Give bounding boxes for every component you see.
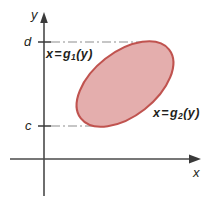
left-boundary-equals: = xyxy=(53,47,63,61)
left-boundary-argument: (y) xyxy=(76,47,92,61)
right-boundary-equals: = xyxy=(160,106,170,120)
tick-label-d: d xyxy=(24,35,31,48)
right-boundary-subscript: 2 xyxy=(178,111,183,121)
left-boundary-subscript: 1 xyxy=(71,52,76,62)
left-boundary-function: g xyxy=(63,47,71,61)
right-boundary-label: x=g2(y) xyxy=(153,107,200,120)
figure-canvas xyxy=(0,0,217,200)
right-boundary-argument: (y) xyxy=(183,106,199,120)
y-axis-arrow-icon xyxy=(40,12,48,23)
y-axis-label: y xyxy=(31,8,38,21)
x-axis-label: x xyxy=(193,166,200,179)
left-boundary-label: x=g1(y) xyxy=(46,48,93,61)
right-boundary-function: g xyxy=(170,106,178,120)
x-axis-arrow-icon xyxy=(189,155,201,164)
math-figure-region-between-curves: y x d c x=g1(y) x=g2(y) xyxy=(0,0,217,200)
tick-label-c: c xyxy=(25,119,32,132)
